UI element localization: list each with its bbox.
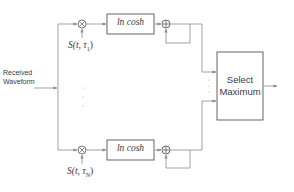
- select-maximum-label: Select Maximum: [217, 74, 263, 98]
- reference-signal-1: S(t, τ1): [68, 40, 93, 52]
- branch-ellipsis: [82, 79, 209, 106]
- feedback-loop-1: [166, 24, 190, 43]
- ln-cosh-label-n: ln cosh: [107, 143, 154, 153]
- reference-signal-n: S(t, τN): [67, 166, 93, 178]
- input-label: Received Waveform: [3, 68, 35, 86]
- branch-n: [58, 101, 216, 168]
- ln-cosh-label-1: ln cosh: [107, 17, 154, 27]
- feedback-loop-n: [166, 150, 190, 168]
